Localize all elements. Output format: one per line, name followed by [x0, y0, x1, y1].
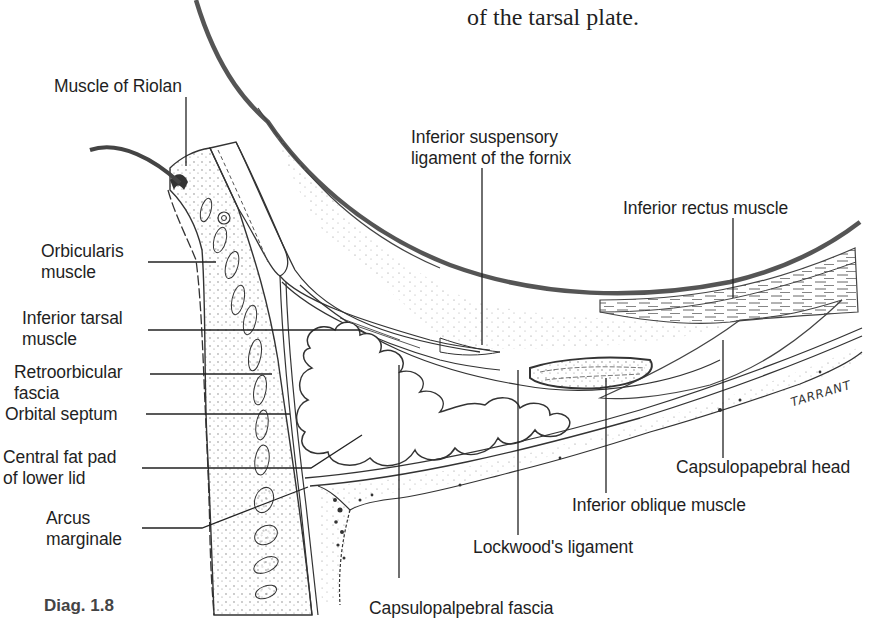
label-inferior-tarsal-line1: Inferior tarsal	[22, 308, 123, 329]
label-retroorbicular-line1: Retroorbicular	[14, 362, 123, 383]
label-capsulopalpebral-head: Capsulopapebral head	[676, 457, 850, 478]
label-orbicularis-line1: Orbicularis	[41, 241, 124, 262]
label-retroorbicular-line2: fascia	[14, 383, 59, 404]
label-capsulopalpebral-fascia: Capsulopalpebral fascia	[369, 598, 553, 619]
label-arcus-marginale-line2: marginale	[46, 529, 122, 550]
label-orbital-septum: Orbital septum	[5, 404, 117, 425]
orbicularis-column	[170, 148, 312, 615]
label-inferior-suspensory-ligament-line1: Inferior suspensory	[411, 127, 558, 148]
label-orbicularis-line2: muscle	[41, 262, 96, 283]
label-inferior-oblique-muscle: Inferior oblique muscle	[572, 495, 746, 516]
figure-label: Diag. 1.8	[44, 596, 114, 616]
inferior-rectus-shape	[600, 248, 858, 323]
label-central-fat-pad-line1: Central fat pad	[3, 447, 116, 468]
anatomy-diagram: of the tarsal plate. Muscle of Riolan In…	[0, 0, 896, 625]
label-inferior-rectus-muscle: Inferior rectus muscle	[623, 198, 788, 219]
caption-fragment: of the tarsal plate.	[467, 4, 639, 31]
inferior-oblique-muscle	[530, 358, 652, 389]
label-lockwoods-ligament: Lockwood's ligament	[473, 537, 633, 558]
label-central-fat-pad-line2: of lower lid	[3, 468, 85, 489]
eyelash-curve	[90, 147, 180, 183]
label-inferior-tarsal-line2: muscle	[22, 329, 77, 350]
label-inferior-suspensory-ligament-line2: ligament of the fornix	[411, 148, 571, 169]
label-muscle-of-riolan: Muscle of Riolan	[54, 76, 182, 97]
label-arcus-marginale-line1: Arcus	[46, 508, 90, 529]
